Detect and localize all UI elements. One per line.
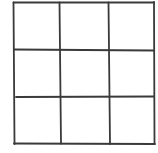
- grid-border-left: [14, 3, 15, 145]
- grid-line-vertical-2: [109, 3, 111, 145]
- grid-diagram: [0, 0, 158, 153]
- grid-border-bottom: [14, 144, 155, 145]
- grid-line-horizontal-2: [16, 97, 154, 98]
- grid-svg: [0, 0, 158, 153]
- grid-line-horizontal-1: [14, 50, 154, 51]
- grid-border-right: [154, 2, 155, 144]
- grid-line-vertical-1: [60, 3, 62, 144]
